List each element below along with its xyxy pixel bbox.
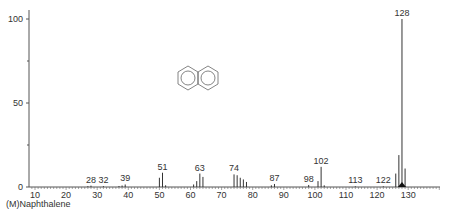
svg-text:113: 113 — [348, 175, 362, 185]
compound-caption: (M)Naphthalene — [6, 199, 71, 209]
svg-text:0: 0 — [18, 182, 23, 192]
mass-spectrum-chart: 050100102030405060708090100110120130 283… — [0, 0, 456, 218]
axes: 050100102030405060708090100110120130 — [8, 10, 440, 200]
svg-text:102: 102 — [314, 156, 329, 166]
svg-text:50: 50 — [13, 98, 23, 108]
svg-text:98: 98 — [304, 174, 314, 184]
svg-text:128: 128 — [394, 8, 409, 18]
svg-text:70: 70 — [217, 190, 227, 200]
svg-text:110: 110 — [339, 190, 353, 200]
naphthalene-structure-icon — [178, 66, 218, 90]
svg-text:80: 80 — [248, 190, 258, 200]
svg-text:63: 63 — [195, 163, 205, 173]
svg-text:40: 40 — [123, 190, 133, 200]
svg-text:51: 51 — [158, 162, 168, 172]
svg-text:130: 130 — [401, 190, 416, 200]
svg-text:39: 39 — [120, 173, 130, 183]
svg-text:90: 90 — [279, 190, 289, 200]
svg-text:122: 122 — [376, 175, 391, 185]
svg-text:30: 30 — [92, 190, 102, 200]
svg-text:60: 60 — [185, 190, 195, 200]
svg-text:100: 100 — [307, 190, 322, 200]
svg-text:87: 87 — [269, 173, 279, 183]
svg-text:32: 32 — [98, 175, 108, 185]
peaks: 2832395163748798102113122128 — [86, 8, 410, 187]
svg-text:100: 100 — [8, 14, 23, 24]
svg-text:120: 120 — [370, 190, 385, 200]
svg-text:28: 28 — [86, 175, 96, 185]
svg-text:50: 50 — [154, 190, 164, 200]
svg-text:74: 74 — [229, 163, 239, 173]
